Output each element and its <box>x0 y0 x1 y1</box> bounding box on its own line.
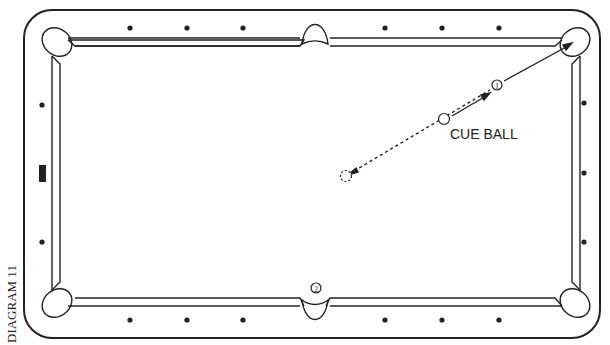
pocket-top-side <box>302 25 328 45</box>
cue-ball <box>439 114 450 125</box>
cushion-right <box>572 56 580 290</box>
pocket-bottom-right <box>554 283 595 323</box>
cushion-top-right <box>330 40 562 46</box>
cue-ball-label: CUE BALL <box>450 126 518 142</box>
ball-1-number: 1 <box>495 82 499 91</box>
cushion-bottom-left <box>75 298 304 306</box>
rail-diamonds <box>39 25 587 322</box>
cushion-top-left <box>68 40 304 46</box>
pocket-top-left <box>36 22 77 62</box>
pool-table-diagram: 1 2 CUE BALL <box>0 0 610 345</box>
rail-marker <box>39 165 46 182</box>
pocket-top-right <box>554 22 595 62</box>
pocket-bottom-side <box>302 300 328 320</box>
cue-ball-path <box>452 96 486 116</box>
ball-2-number: 2 <box>314 285 318 294</box>
cushion-bottom-right <box>326 298 562 306</box>
pocket-bottom-left <box>36 283 77 323</box>
cushion-left <box>52 56 60 290</box>
object-ball-path <box>504 47 566 81</box>
ghost-ball <box>341 171 352 182</box>
